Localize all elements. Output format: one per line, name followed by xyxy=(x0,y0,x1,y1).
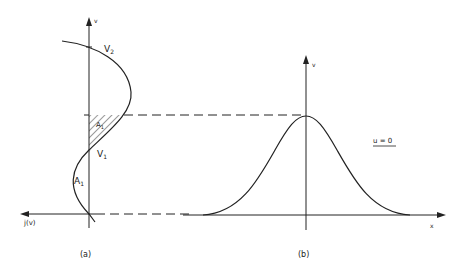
panel-b: v x u = 0 (b) xyxy=(183,55,446,259)
point-v2-label: V2 xyxy=(104,44,114,55)
panel-a: v V2 V1 A1 A1 j(v) (a) xyxy=(20,17,131,259)
panel-b-v-axis-arrow-icon xyxy=(303,55,309,64)
panel-a-v-label: v xyxy=(94,17,98,24)
panel-a-h-label: j(v) xyxy=(23,219,36,227)
point-v1-label: V1 xyxy=(97,149,107,160)
figure-canvas: v V2 V1 A1 A1 j(v) (a) v x u = 0 (b) xyxy=(0,0,462,274)
lower-area-label: A1 xyxy=(74,176,84,187)
panel-a-h-axis-arrow-icon xyxy=(20,211,29,217)
panel-b-v-label: v xyxy=(312,61,316,68)
panel-a-caption: (a) xyxy=(80,250,91,259)
panel-b-caption: (b) xyxy=(298,250,309,259)
condition-label: u = 0 xyxy=(373,137,392,145)
panel-b-x-label: x xyxy=(430,222,434,229)
panel-a-v-axis-arrow-icon xyxy=(86,17,92,26)
panel-b-x-axis-arrow-icon xyxy=(437,212,446,218)
